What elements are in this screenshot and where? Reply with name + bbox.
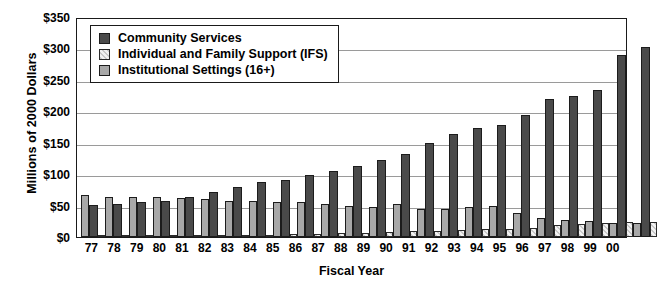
bar-group xyxy=(465,19,489,237)
bar-group xyxy=(561,19,585,237)
bar-inst xyxy=(633,223,641,237)
bar-group xyxy=(393,19,417,237)
bar-inst xyxy=(513,213,521,237)
bar-ifs xyxy=(242,235,249,238)
x-axis-tick-labels: 7778798081828384858687888990919293949596… xyxy=(76,241,627,259)
bar-group xyxy=(441,19,465,237)
bar-inst xyxy=(249,201,257,237)
x-axis-tick-label: 97 xyxy=(533,241,556,259)
bar-cs xyxy=(473,128,482,237)
bar-cs xyxy=(305,175,314,237)
bar-ifs xyxy=(650,222,657,237)
bar-ifs xyxy=(602,223,609,237)
x-axis-tick-label: 83 xyxy=(216,241,239,259)
bar-ifs xyxy=(386,232,393,237)
bar-cs xyxy=(545,99,554,237)
bar-inst xyxy=(369,207,377,237)
bar-inst xyxy=(321,204,329,237)
bar-ifs xyxy=(218,235,225,237)
bar-inst xyxy=(81,195,89,237)
x-axis-tick-label: 82 xyxy=(193,241,216,259)
x-axis-tick-label: 89 xyxy=(352,241,375,259)
bar-ifs xyxy=(434,231,441,237)
bar-inst xyxy=(537,218,545,237)
bar-cs xyxy=(521,115,530,237)
y-axis-tick-label: $250 xyxy=(12,74,70,88)
y-axis-tick-label: $350 xyxy=(12,11,70,25)
bar-inst xyxy=(129,197,137,237)
bar-inst xyxy=(201,199,209,237)
x-axis-tick-label: 98 xyxy=(556,241,579,259)
bar-cs xyxy=(449,134,458,237)
bar-ifs xyxy=(410,231,417,237)
legend-swatch-community-services xyxy=(99,33,110,44)
y-axis-tick-label: $50 xyxy=(12,200,70,214)
y-axis-tick-label: $100 xyxy=(12,168,70,182)
y-axis-tick-label: $200 xyxy=(12,105,70,119)
bar-ifs xyxy=(290,234,297,237)
bar-group xyxy=(345,19,369,237)
bar-group xyxy=(489,19,513,237)
bar-cs xyxy=(257,182,266,237)
bar-ifs xyxy=(458,230,465,237)
bar-inst xyxy=(609,223,617,237)
bar-inst xyxy=(561,220,569,237)
bar-inst xyxy=(273,202,281,237)
x-axis-tick-label: 79 xyxy=(125,241,148,259)
x-axis-tick-label: 00 xyxy=(601,241,624,259)
bar-ifs xyxy=(146,235,153,237)
bar-cs xyxy=(425,143,434,237)
bar-group xyxy=(537,19,561,237)
bar-ifs xyxy=(194,235,201,237)
bar-ifs xyxy=(338,233,345,237)
bar-inst xyxy=(153,197,161,237)
bar-ifs xyxy=(530,228,537,237)
bar-group xyxy=(513,19,537,237)
legend: Community Services Individual and Family… xyxy=(90,25,339,83)
bar-ifs xyxy=(314,234,321,237)
x-axis-tick-label: 96 xyxy=(511,241,534,259)
x-axis-title: Fiscal Year xyxy=(76,264,627,278)
bar-cs xyxy=(137,202,146,237)
bar-group xyxy=(633,19,657,237)
bar-inst xyxy=(225,201,233,237)
x-axis-tick-label: 85 xyxy=(261,241,284,259)
bar-ifs xyxy=(578,224,585,237)
bar-cs xyxy=(89,205,98,237)
bar-cs xyxy=(593,90,602,237)
x-axis-tick-label: 95 xyxy=(488,241,511,259)
bar-inst xyxy=(393,204,401,237)
bar-group xyxy=(585,19,609,237)
x-axis-tick-label: 93 xyxy=(443,241,466,259)
bar-ifs xyxy=(362,233,369,237)
legend-item-ifs: Individual and Family Support (IFS) xyxy=(99,47,328,61)
bar-ifs xyxy=(122,235,129,237)
x-axis-tick-label: 77 xyxy=(80,241,103,259)
legend-label-ifs: Individual and Family Support (IFS) xyxy=(118,47,328,61)
legend-label-community-services: Community Services xyxy=(118,31,242,45)
bar-ifs xyxy=(266,235,273,238)
bar-inst xyxy=(441,209,449,237)
bar-group xyxy=(609,19,633,237)
x-axis-tick-label: 99 xyxy=(579,241,602,259)
legend-label-institutional-settings: Institutional Settings (16+) xyxy=(118,63,275,77)
legend-swatch-institutional-settings xyxy=(99,65,110,76)
legend-item-community-services: Community Services xyxy=(99,31,328,45)
bar-ifs xyxy=(98,235,105,237)
bar-ifs xyxy=(554,225,561,237)
x-axis-tick-label: 88 xyxy=(329,241,352,259)
y-axis-tick-label: $0 xyxy=(12,231,70,245)
bar-inst xyxy=(417,209,425,237)
x-axis-tick-label: 80 xyxy=(148,241,171,259)
y-axis-tick-label: $300 xyxy=(12,42,70,56)
bar-cs xyxy=(401,154,410,237)
legend-item-institutional-settings: Institutional Settings (16+) xyxy=(99,63,328,77)
bar-group xyxy=(417,19,441,237)
bar-ifs xyxy=(482,229,489,237)
bar-cs xyxy=(281,180,290,237)
bar-inst xyxy=(297,202,305,237)
bar-inst xyxy=(585,221,593,237)
x-axis-tick-label: 78 xyxy=(103,241,126,259)
bar-inst xyxy=(177,198,185,237)
